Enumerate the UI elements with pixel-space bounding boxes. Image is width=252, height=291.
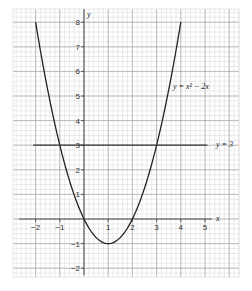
svg-text:3: 3	[154, 223, 159, 232]
svg-text:−1: −1	[55, 223, 65, 232]
svg-text:1: 1	[76, 190, 81, 199]
svg-text:6: 6	[76, 67, 81, 76]
svg-text:2: 2	[76, 166, 81, 175]
line-label: y = 3	[215, 140, 233, 149]
grid-major	[13, 9, 239, 277]
x-axis-label: x	[215, 214, 220, 223]
series	[33, 22, 207, 243]
curve-label: y = x² − 2x	[172, 82, 209, 91]
svg-text:5: 5	[203, 223, 208, 232]
svg-text:−1: −1	[71, 240, 81, 249]
chart: −2−112345−2−112345678 x y y = x² − 2x y …	[0, 0, 252, 291]
svg-text:−2: −2	[31, 223, 41, 232]
y-axis-label: y	[86, 10, 91, 19]
svg-text:7: 7	[76, 43, 81, 52]
svg-text:−2: −2	[71, 264, 81, 273]
axes	[19, 9, 212, 275]
svg-text:2: 2	[130, 223, 135, 232]
svg-text:5: 5	[76, 92, 81, 101]
svg-text:1: 1	[106, 223, 111, 232]
svg-text:4: 4	[179, 223, 184, 232]
svg-text:8: 8	[76, 18, 81, 27]
svg-text:4: 4	[76, 117, 81, 126]
